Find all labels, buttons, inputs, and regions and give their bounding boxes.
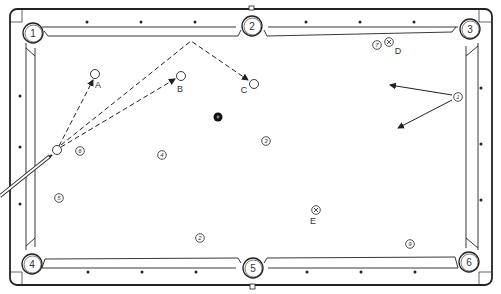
diamond-dot <box>414 271 417 274</box>
pocket-label: 6 <box>466 257 472 268</box>
pocket-2: 2 <box>242 16 262 36</box>
eight-ball <box>214 113 223 122</box>
ball-1: 1 <box>454 93 463 102</box>
pocket-3: 3 <box>460 19 480 39</box>
target-label: A <box>95 80 101 90</box>
diamond-dot <box>359 21 362 24</box>
pocket-label: 2 <box>249 21 255 32</box>
ball-number: 1 <box>456 94 459 100</box>
diamond-dot <box>87 271 90 274</box>
diamond-dot <box>141 271 144 274</box>
pocket-5: 5 <box>243 258 263 278</box>
ball-7: 7 <box>373 41 382 50</box>
diamond-dot <box>19 95 22 98</box>
ball-2: 2 <box>196 234 205 243</box>
diamond-dot <box>413 21 416 24</box>
pool-table-diagram: 123456 ABC 12345679 DE <box>0 0 501 294</box>
ball-6: 6 <box>76 147 85 156</box>
pocket-label: 3 <box>467 24 473 35</box>
x-mark-label: E <box>310 216 316 226</box>
diamond-dot <box>19 203 22 206</box>
diamond-dot <box>140 21 143 24</box>
diamond-dot <box>305 21 308 24</box>
diamond-dot <box>194 21 197 24</box>
ball-4: 4 <box>158 151 167 160</box>
pocket-label: 5 <box>250 263 256 274</box>
pocket-1: 1 <box>23 23 43 43</box>
cue-ball <box>53 146 62 155</box>
diamond-dot <box>360 271 363 274</box>
diamond-dot <box>306 271 309 274</box>
ball-9: 9 <box>406 240 415 249</box>
x-mark-label: D <box>395 46 402 56</box>
pocket-4: 4 <box>22 254 42 274</box>
target-label: C <box>241 85 248 95</box>
ball-3: 3 <box>262 137 271 146</box>
pocket-label: 1 <box>30 28 36 39</box>
diamond-dot <box>480 199 483 202</box>
diamond-dot <box>480 143 483 146</box>
ball-number: 2 <box>197 235 202 241</box>
pocket-label: 4 <box>29 259 35 270</box>
pocket-6: 6 <box>459 252 479 272</box>
diamond-dot <box>19 146 22 149</box>
diamond-dot <box>86 21 89 24</box>
diamond-dot <box>480 87 483 90</box>
ball-5: 5 <box>55 194 64 203</box>
target-label: B <box>177 84 183 94</box>
diamond-dot <box>195 271 198 274</box>
